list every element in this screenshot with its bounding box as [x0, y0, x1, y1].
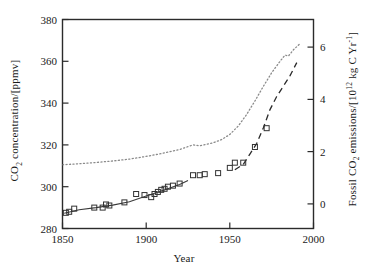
xtick-2000: 2000: [303, 233, 326, 245]
y-axis-left-label: CO2 concentration/[ppmv]: [8, 36, 23, 206]
ytick-left-320: 320: [41, 139, 58, 151]
ytick-left-340: 340: [41, 97, 58, 109]
x-axis-label: Year: [0, 252, 368, 264]
x-axis-ticks: [63, 223, 314, 229]
ylabel-left-pre: CO: [8, 166, 20, 182]
ylabel-right-sup2: -1: [345, 36, 354, 43]
x-axis-tick-labels: 1850 1900 1950 2000: [52, 233, 326, 245]
xtick-1850: 1850: [52, 233, 75, 245]
left-axis-ticks: [63, 20, 69, 229]
series-co2-modelled-dotted: [63, 44, 301, 165]
ytick-right-4: 4: [320, 93, 326, 105]
data-point-marker: [134, 192, 139, 197]
series-co2-markers: [63, 126, 269, 216]
ylabel-left-sub: 2: [15, 162, 24, 166]
series-co2-fit-solid: [64, 180, 188, 213]
ytick-right-6: 6: [320, 41, 326, 53]
xtick-1950: 1950: [219, 233, 242, 245]
xtick-1900: 1900: [135, 233, 158, 245]
right-axis-tick-labels: 6 4 2 0: [320, 41, 326, 210]
data-point-marker: [202, 172, 207, 177]
ylabel-left-post: concentration/[ppmv]: [8, 60, 20, 162]
series-fossil-emissions-dashed: [235, 63, 297, 170]
ylabel-right-pre: Fossil CO: [346, 160, 358, 206]
ytick-left-380: 380: [41, 14, 58, 26]
ylabel-right-post: kg C Yr: [346, 42, 358, 81]
ytick-left-300: 300: [41, 181, 58, 193]
right-axis-ticks: [308, 47, 314, 204]
plot-area-svg: 380 360 340 320 300 280 6 4 2 0 1850 190…: [0, 0, 368, 276]
data-point-marker: [232, 160, 237, 165]
plot-frame: [63, 20, 314, 229]
ylabel-right-sub: 2: [352, 156, 361, 160]
ylabel-right-mid: emissions/[10: [346, 90, 358, 157]
left-axis-tick-labels: 380 360 340 320 300 280: [41, 14, 58, 235]
data-point-marker: [264, 126, 269, 131]
data-point-marker: [227, 165, 232, 170]
ylabel-right-sup: 12: [345, 82, 354, 90]
ytick-left-360: 360: [41, 55, 58, 67]
data-point-marker: [216, 171, 221, 176]
co2-chart-figure: 380 360 340 320 300 280 6 4 2 0 1850 190…: [0, 0, 368, 276]
data-point-marker: [197, 173, 202, 178]
ytick-right-0: 0: [320, 198, 326, 210]
y-axis-right-label: Fossil CO2 emissions/[1012 kg C Yr-1]: [345, 36, 362, 206]
ytick-right-2: 2: [320, 146, 326, 158]
data-point-marker: [191, 173, 196, 178]
ylabel-right-tail: ]: [346, 32, 358, 36]
